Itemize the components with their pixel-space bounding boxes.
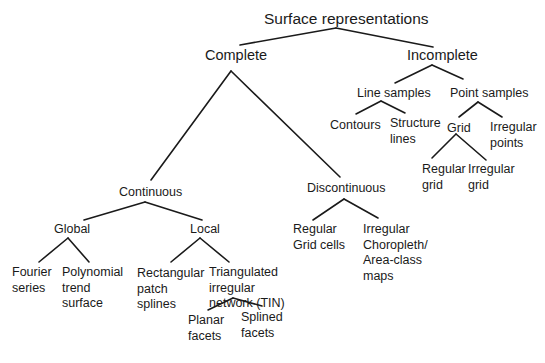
edge-line-structure: [381, 101, 405, 113]
edge-point-irregular: [478, 102, 502, 117]
edge-point-grid: [459, 102, 478, 117]
edge-root-incomplete: [336, 28, 433, 47]
node-regular-grid-cells: Regular Grid cells: [293, 222, 345, 253]
edge-incomplete-point: [432, 65, 463, 79]
edge-complete-continuous: [151, 71, 231, 180]
node-tin: Triangulated irregular network (TIN): [209, 265, 285, 312]
edge-complete-discontinuous: [231, 71, 340, 177]
node-fourier-series: Fourier series: [12, 265, 52, 296]
node-incomplete: Incomplete: [407, 47, 478, 64]
edge-root-complete: [240, 28, 336, 45]
node-irregular-choropleth: Irregular Choropleth/ Area-class maps: [363, 222, 428, 284]
edge-global-polynomial: [68, 238, 89, 262]
edge-local-tin: [200, 238, 229, 262]
node-planar-facets: Planar facets: [188, 313, 224, 344]
edge-local-rect: [171, 238, 200, 262]
node-splined-facets: Splined facets: [241, 310, 283, 341]
node-irregular-grid: Irregular grid: [468, 162, 515, 193]
edge-disc-irregular: [344, 199, 378, 218]
node-polynomial-trend-surface: Polynomial trend surface: [62, 265, 123, 312]
node-irregular-points: Irregular points: [490, 120, 537, 151]
node-local: Local: [190, 222, 220, 238]
node-line-samples: Line samples: [357, 86, 431, 102]
edge-continuous-local: [145, 202, 202, 220]
node-regular-grid: Regular grid: [422, 162, 466, 193]
node-global: Global: [54, 222, 90, 238]
edge-disc-regular: [313, 199, 344, 220]
node-structure-lines: Structure lines: [390, 116, 441, 147]
node-grid: Grid: [447, 121, 471, 137]
edge-continuous-global: [84, 202, 145, 220]
node-rectangular-patch-splines: Rectangular patch splines: [137, 266, 204, 313]
edge-incomplete-line: [395, 65, 432, 83]
edge-global-fourier: [39, 238, 68, 262]
node-point-samples: Point samples: [450, 86, 529, 102]
node-continuous: Continuous: [119, 185, 182, 201]
node-discontinuous: Discontinuous: [307, 181, 386, 197]
node-surface-representations: Surface representations: [264, 10, 429, 28]
node-complete: Complete: [205, 47, 267, 64]
node-contours: Contours: [330, 118, 381, 134]
edge-line-contours: [356, 101, 381, 114]
edge-grid-irregular: [456, 134, 486, 160]
